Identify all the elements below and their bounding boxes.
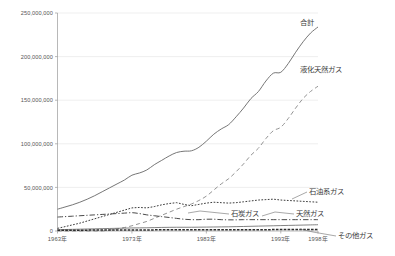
series-label: 液化天然ガス bbox=[300, 65, 342, 74]
x-tick-label: 1973年 bbox=[122, 235, 141, 243]
y-tick-label: 100,000,000 bbox=[21, 141, 53, 147]
x-tick-label: 1998年 bbox=[308, 235, 327, 243]
y-tick-label: 50,000,000 bbox=[24, 185, 53, 191]
series-label: 合計 bbox=[300, 18, 315, 27]
x-tick-label: 1993年 bbox=[271, 235, 290, 243]
series-label: 天然ガス bbox=[296, 209, 324, 218]
series-label: 石油系ガス bbox=[309, 187, 344, 196]
y-tick-label: 150,000,000 bbox=[21, 97, 53, 103]
chart-background bbox=[0, 0, 395, 256]
series-label: その他ガス bbox=[338, 231, 373, 240]
y-tick-label: 0 bbox=[50, 228, 53, 234]
gas-production-line-chart: 050,000,000100,000,000150,000,000200,000… bbox=[0, 0, 395, 256]
y-tick-label: 200,000,000 bbox=[21, 54, 53, 60]
chart-container: 050,000,000100,000,000150,000,000200,000… bbox=[0, 0, 395, 256]
x-tick-label: 1983年 bbox=[197, 235, 216, 243]
series-label: 石炭ガス bbox=[231, 209, 259, 218]
y-tick-label: 250,000,000 bbox=[21, 10, 53, 16]
x-tick-label: 1963年 bbox=[48, 235, 67, 243]
